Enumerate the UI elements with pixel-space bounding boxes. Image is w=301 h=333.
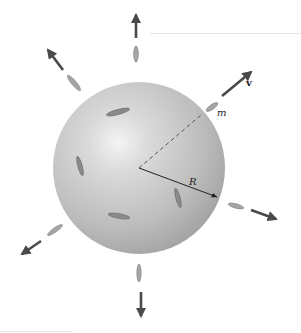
faint-scan-line: [0, 331, 72, 332]
diagram-canvas: v m R: [0, 0, 301, 333]
faint-scan-line: [150, 33, 301, 34]
label-m: m: [217, 107, 226, 118]
label-v: v: [245, 77, 253, 88]
arrow-right: [251, 210, 276, 219]
sphere-diagram: v m R: [0, 0, 301, 333]
arrow-lower-left: [22, 241, 41, 254]
label-R: R: [188, 176, 197, 187]
arrow-upper-left: [48, 50, 63, 70]
